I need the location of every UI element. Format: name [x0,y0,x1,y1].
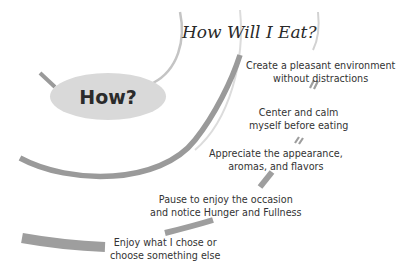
step-pause: Pause to enjoy the occasion and notice H… [150,193,302,219]
how-will-i-eat-diagram: How Will I Eat? How? Create a pleasant e… [0,0,405,278]
step-center-calm: Center and calm myself before eating [249,106,348,132]
step-enjoy: Enjoy what I chose or choose something e… [110,236,220,262]
hub-ellipse: How? [50,73,166,120]
step-appreciate: Appreciate the appearance, aromas, and f… [209,147,343,173]
hub-label: How? [79,86,137,108]
diagram-title: How Will I Eat? [182,22,317,42]
step-create-environment: Create a pleasant environment without di… [246,59,395,85]
